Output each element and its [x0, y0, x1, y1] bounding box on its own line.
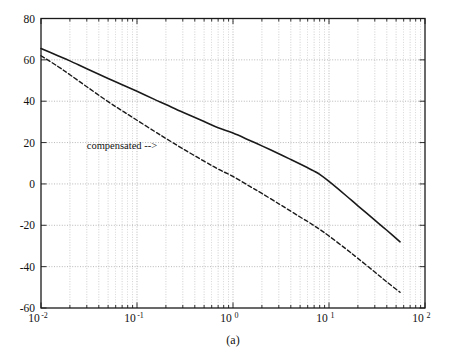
- y-tick-label: 60: [24, 54, 36, 66]
- y-tick-label: -40: [20, 261, 36, 273]
- y-tick-label: -20: [20, 219, 36, 231]
- x-tick-exponent: -2: [41, 311, 48, 320]
- y-tick-label: 40: [24, 95, 36, 107]
- x-tick-label: 10: [412, 312, 424, 324]
- y-tick-label: 80: [24, 13, 36, 25]
- y-tick-label: 0: [29, 178, 35, 190]
- x-tick-exponent: 1: [331, 311, 335, 320]
- x-tick-label: 10: [124, 312, 136, 324]
- chart-annotations: compensated -->: [87, 140, 157, 151]
- x-tick-label: 10: [316, 312, 328, 324]
- figure-caption: (a): [226, 333, 239, 347]
- figure-background: [0, 0, 450, 355]
- compensated-annotation: compensated -->: [87, 140, 157, 151]
- x-tick-label: 10: [220, 312, 232, 324]
- x-tick-exponent: 2: [427, 311, 431, 320]
- chart-canvas: 10-210-1100101102 -60-40-20020406080 com…: [0, 0, 450, 355]
- bode-magnitude-figure: 10-210-1100101102 -60-40-20020406080 com…: [0, 0, 450, 355]
- y-tick-label: 20: [24, 137, 36, 149]
- x-tick-exponent: 0: [235, 311, 239, 320]
- x-tick-exponent: -1: [137, 311, 144, 320]
- y-tick-label: -60: [20, 302, 36, 314]
